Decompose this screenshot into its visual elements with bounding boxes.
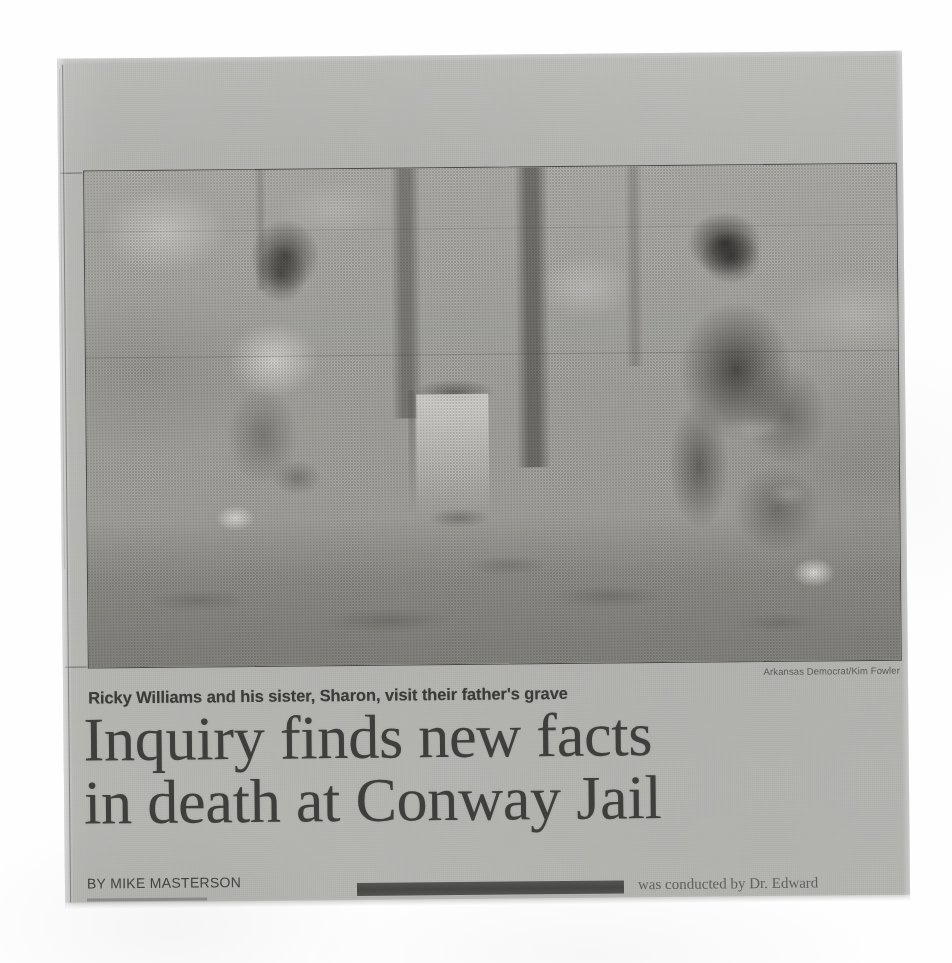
headline-line-1: Inquiry finds new facts	[83, 701, 904, 772]
newspaper-clipping: Arkansas Democrat/Kim Fowler Ricky Willi…	[57, 51, 910, 909]
redaction-bar	[357, 880, 624, 896]
photo-frame	[83, 163, 902, 669]
scanner-bed: Arkansas Democrat/Kim Fowler Ricky Willi…	[0, 0, 952, 963]
photo-credit: Arkansas Democrat/Kim Fowler	[763, 665, 899, 677]
headline: Inquiry finds new facts in death at Conw…	[83, 701, 904, 835]
byline: BY MIKE MASTERSON	[87, 874, 241, 891]
column-rule-tick	[60, 173, 82, 174]
news-photograph	[84, 164, 901, 668]
column-rule-tick	[65, 667, 87, 668]
body-text-fragment: was conducted by Dr. Edward	[638, 875, 819, 894]
headline-line-2: in death at Conway Jail	[84, 764, 905, 835]
